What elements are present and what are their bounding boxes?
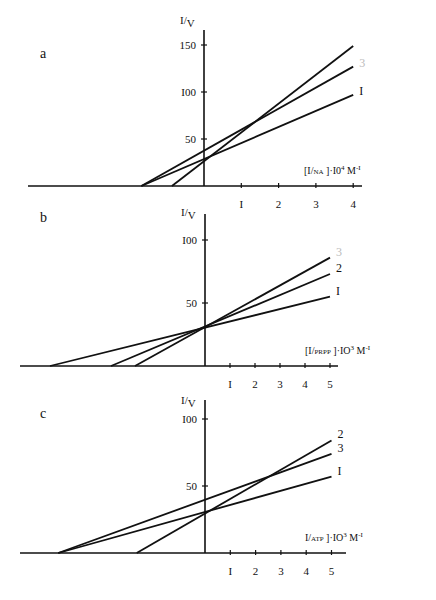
series-line-3: [58, 454, 331, 553]
x-tick-label: 3: [277, 378, 283, 390]
y-tick-label: 50: [186, 297, 198, 309]
series-label: I: [336, 284, 340, 298]
x-tick-label: 5: [327, 378, 333, 390]
x-tick-label: 4: [350, 198, 356, 210]
x-tick-label: I: [239, 198, 243, 210]
x-tick-label: 5: [329, 565, 335, 577]
y-tick-label: 50: [185, 133, 197, 145]
lineweaver-burk-figure: aI/V50I00150I234[I/NA ]·I04 M-II3bI/V50I…: [0, 0, 436, 600]
series-label: 3: [338, 441, 344, 455]
y-tick-label: I00: [182, 413, 197, 425]
series-line-3: [135, 258, 330, 366]
y-axis-title: I/V: [181, 394, 196, 409]
series-line-2: [111, 274, 330, 366]
x-tick-label: 2: [276, 198, 282, 210]
series-line-2: [137, 440, 332, 553]
panel-letter: c: [40, 406, 46, 421]
y-tick-label: I00: [181, 86, 196, 98]
x-tick-label: 4: [303, 565, 309, 577]
series-label: I: [338, 464, 342, 478]
panel-letter: a: [40, 46, 47, 61]
panel-letter: b: [40, 210, 47, 225]
series-label: 3: [359, 56, 365, 70]
series-label: 2: [336, 261, 342, 275]
x-tick-label: 4: [302, 378, 308, 390]
panel-a: aI/V50I00150I234[I/NA ]·I04 M-II3: [28, 14, 365, 210]
series-label: I: [359, 84, 363, 98]
y-axis-title: I/V: [181, 206, 196, 221]
x-axis-title: I/ATP ]·IO3 M-I: [305, 531, 364, 543]
x-tick-label: 3: [278, 565, 284, 577]
x-tick-label: I: [228, 565, 232, 577]
x-axis-title: [I/PRPP ]·IO3 M-I: [305, 344, 371, 356]
panel-b: bI/V50I00I2345[I/PRPP ]·IO3 M-II23: [20, 206, 371, 390]
x-tick-label: 2: [252, 378, 258, 390]
y-tick-label: I00: [182, 234, 197, 246]
y-tick-label: 150: [180, 39, 197, 51]
x-tick-label: I: [228, 378, 232, 390]
x-tick-label: 2: [253, 565, 259, 577]
x-axis-title: [I/NA ]·I04 M-I: [304, 164, 361, 176]
y-axis-title: I/V: [180, 14, 195, 29]
series-label: 3: [336, 245, 342, 259]
y-tick-label: 50: [186, 480, 198, 492]
series-label: 2: [338, 427, 344, 441]
panel-c: cI/V50I00I2345I/ATP ]·IO3 M-II23: [20, 394, 364, 577]
x-tick-label: 3: [313, 198, 319, 210]
